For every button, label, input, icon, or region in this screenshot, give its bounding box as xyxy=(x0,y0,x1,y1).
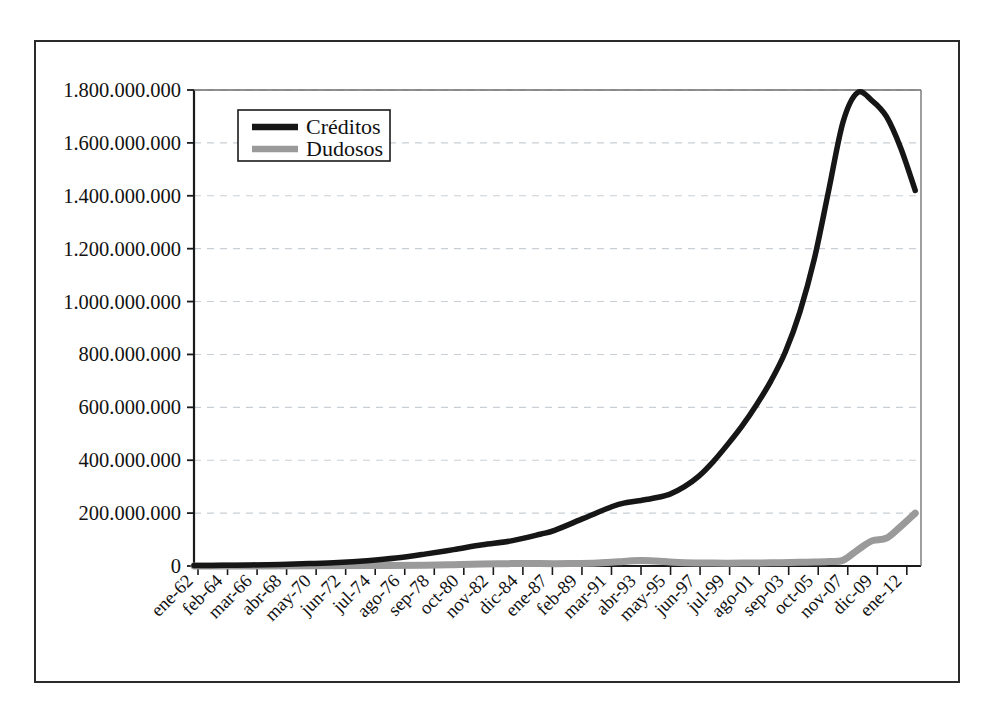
y-tick-label: 200.000.000 xyxy=(79,502,182,524)
x-axis-ticks: ene-62feb-64mar-66abr-68may-70jun-72jul-… xyxy=(147,566,907,625)
y-tick-label: 1.600.000.000 xyxy=(63,132,181,154)
y-tick-label: 600.000.000 xyxy=(79,396,182,418)
y-tick-label: 1.000.000.000 xyxy=(63,291,181,313)
series-line-dudosos xyxy=(194,513,915,566)
line-chart: 0200.000.000400.000.000600.000.000800.00… xyxy=(0,0,987,711)
y-axis-ticks: 0200.000.000400.000.000600.000.000800.00… xyxy=(63,79,194,577)
chart-page: 0200.000.000400.000.000600.000.000800.00… xyxy=(0,0,987,711)
y-tick-label: 800.000.000 xyxy=(79,343,182,365)
series-group xyxy=(194,92,915,566)
y-tick-label: 400.000.000 xyxy=(79,449,182,471)
chart-legend: Créditos Dudosos xyxy=(238,110,390,161)
y-tick-label: 1.800.000.000 xyxy=(63,79,181,101)
y-tick-label: 1.400.000.000 xyxy=(63,185,181,207)
y-tick-label: 1.200.000.000 xyxy=(63,238,181,260)
series-line-creditos xyxy=(194,92,915,566)
legend-label-dudosos: Dudosos xyxy=(306,136,383,161)
